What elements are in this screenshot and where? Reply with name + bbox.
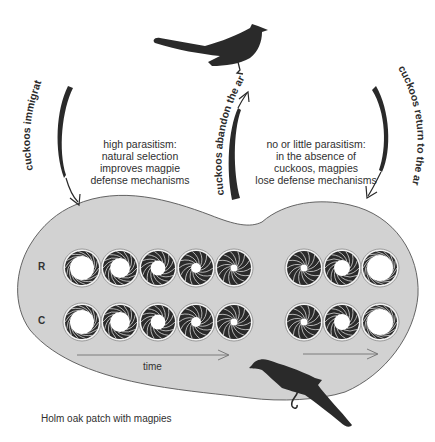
figure-caption: Holm oak patch with magpies <box>41 413 172 424</box>
low-parasitism-text: no or little parasitism: in the absence … <box>251 138 381 186</box>
aperture-icon <box>101 249 139 287</box>
holm-oak-patch <box>18 195 419 400</box>
aperture-icon <box>361 303 399 341</box>
immigrate-label: cuckoos immigrat <box>20 78 44 172</box>
text-line: no or little parasitism: <box>251 138 381 150</box>
text-line: natural selection <box>80 150 200 162</box>
diagram-canvas: cuckoos immigrat cuckoos abandon the are… <box>0 0 435 442</box>
aperture-icon <box>139 249 177 287</box>
row-label-c: C <box>38 315 45 326</box>
time-label: time <box>143 361 162 372</box>
aperture-icon <box>63 249 101 287</box>
cuckoo-silhouette-icon <box>154 24 268 74</box>
aperture-icon <box>177 303 215 341</box>
text-line: defense mechanisms <box>80 174 200 186</box>
aperture-icon <box>101 303 139 341</box>
text-line: lose defense mechanisms <box>251 174 381 186</box>
aperture-icon <box>361 249 399 287</box>
row-label-r: R <box>38 261 45 272</box>
aperture-icon <box>215 303 253 341</box>
aperture-icon <box>63 303 101 341</box>
aperture-icon <box>215 249 253 287</box>
high-parasitism-text: high parasitism: natural selection impro… <box>80 138 200 186</box>
aperture-icon <box>285 303 323 341</box>
text-line: improves magpie <box>80 162 200 174</box>
aperture-icon <box>177 249 215 287</box>
immigrate-arrow <box>58 86 80 205</box>
text-line: high parasitism: <box>80 138 200 150</box>
aperture-icon <box>139 303 177 341</box>
aperture-icon <box>323 249 361 287</box>
aperture-icon <box>323 303 361 341</box>
aperture-icon <box>285 249 323 287</box>
text-line: in the absence of <box>251 150 381 162</box>
text-line: cuckoos, magpies <box>251 162 381 174</box>
